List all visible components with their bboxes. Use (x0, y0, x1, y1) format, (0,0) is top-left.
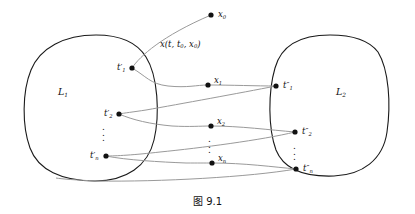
trajectory-curve-5 (106, 156, 296, 169)
figure-canvas (0, 0, 415, 214)
point-t2pp (292, 129, 297, 134)
point-x0 (208, 12, 213, 17)
vertical-dots-middle: ... (208, 137, 211, 154)
point-t1pp (273, 83, 278, 88)
point-label-tnp: t′n (90, 151, 99, 161)
trajectory-curve-6 (56, 169, 296, 181)
point-t2p (116, 111, 121, 116)
region-label-L2: L2 (336, 87, 346, 99)
vertical-dots-left: ... (102, 125, 105, 142)
vertical-dots-right: ... (293, 144, 296, 161)
point-x1 (205, 82, 210, 87)
point-label-t2p: t′2 (104, 109, 113, 119)
point-x2 (208, 123, 213, 128)
point-label-tnpp: t″n (303, 164, 313, 174)
trajectory-curve-3 (119, 114, 295, 132)
point-label-t1p: t′1 (117, 63, 126, 73)
point-tnp (103, 153, 108, 158)
point-label-x0: x0 (218, 10, 226, 20)
point-label-x2: x2 (217, 117, 225, 127)
point-label-xn: xn (218, 154, 226, 164)
trajectory-curve-4 (106, 132, 295, 156)
point-tnpp (293, 166, 298, 171)
region-outline-L2 (270, 35, 389, 176)
trajectory-label: x(t, t0, x0) (160, 40, 201, 50)
point-xn (209, 160, 214, 165)
point-t1p (129, 65, 134, 70)
region-label-L1: L1 (58, 87, 68, 99)
point-label-t2pp: t″2 (302, 127, 312, 137)
point-label-x1: x1 (214, 76, 222, 86)
trajectory-curve-2 (119, 86, 276, 114)
point-label-t1pp: t″1 (283, 81, 293, 91)
figure-caption: 图 9.1 (0, 193, 415, 208)
